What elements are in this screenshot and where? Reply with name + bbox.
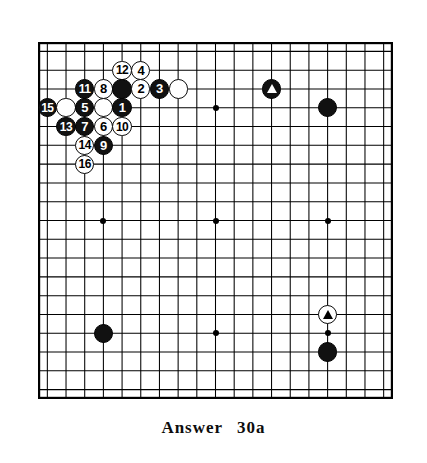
stone-move-11[interactable]: 11 — [75, 79, 94, 98]
stone-black-triangle[interactable] — [262, 79, 281, 98]
stone-number: 10 — [116, 121, 128, 133]
stone-number: 6 — [100, 120, 107, 133]
go-problem-figure: 12411823155113761014916 Answer30a — [0, 0, 427, 463]
triangle-marker-icon — [323, 310, 333, 319]
triangle-marker-icon — [267, 84, 277, 93]
stone-move-4[interactable]: 4 — [131, 61, 150, 80]
stone-number: 14 — [79, 139, 91, 151]
stone-number: 9 — [100, 139, 107, 152]
stone-number: 11 — [79, 83, 91, 95]
stone-move-13[interactable]: 13 — [56, 117, 75, 136]
stone-move-16[interactable]: 16 — [75, 155, 94, 174]
star-point — [213, 218, 219, 224]
stone-move-2[interactable]: 2 — [131, 79, 150, 98]
stone-number: 8 — [100, 82, 107, 95]
star-point — [213, 330, 219, 336]
stone-move-1[interactable]: 1 — [112, 98, 131, 117]
star-point — [213, 105, 219, 111]
stone-move-10[interactable]: 10 — [112, 117, 131, 136]
stone-white-plain-a[interactable] — [169, 79, 188, 98]
stone-move-14[interactable]: 14 — [75, 136, 94, 155]
stone-number: 5 — [81, 101, 88, 114]
star-point — [100, 218, 106, 224]
stone-move-5[interactable]: 5 — [75, 98, 94, 117]
stone-number: 4 — [137, 64, 144, 77]
stone-number: 13 — [60, 121, 72, 133]
stone-number: 12 — [116, 64, 128, 76]
stone-number: 2 — [137, 82, 144, 95]
stone-move-7[interactable]: 7 — [75, 117, 94, 136]
stone-move-12[interactable]: 12 — [112, 61, 131, 80]
stone-black-corner-right[interactable] — [318, 98, 337, 117]
stone-layer: 12411823155113761014916 — [38, 42, 393, 399]
stone-black-lower-left[interactable] — [94, 324, 113, 343]
stone-number: 7 — [81, 120, 88, 133]
stone-number: 3 — [156, 82, 163, 95]
go-board[interactable]: 12411823155113761014916 — [38, 42, 393, 399]
stone-black-lower-right[interactable] — [318, 342, 337, 361]
star-point — [325, 218, 331, 224]
stone-number: 15 — [41, 102, 53, 114]
stone-move-15[interactable]: 15 — [38, 98, 57, 117]
stone-white-triangle[interactable] — [318, 305, 337, 324]
stone-black-plain-a[interactable] — [112, 79, 131, 98]
star-point — [325, 330, 331, 336]
stone-white-plain-c[interactable] — [94, 98, 113, 117]
stone-move-8[interactable]: 8 — [94, 79, 113, 98]
caption-label: Answer — [161, 418, 223, 437]
stone-move-6[interactable]: 6 — [94, 117, 113, 136]
stone-move-3[interactable]: 3 — [150, 79, 169, 98]
stone-number: 1 — [119, 101, 126, 114]
figure-caption: Answer30a — [0, 418, 427, 438]
stone-white-plain-b[interactable] — [56, 98, 75, 117]
caption-number: 30a — [237, 418, 266, 437]
stone-number: 16 — [79, 158, 91, 170]
stone-move-9[interactable]: 9 — [94, 136, 113, 155]
